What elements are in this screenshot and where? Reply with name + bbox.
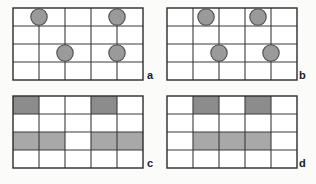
panel-b-circle-r3-c2 (211, 45, 227, 61)
panel-d-cell-r1-c4 (245, 96, 271, 114)
panel-a-circle-r1-c4 (109, 9, 125, 25)
panel-b-circle-r1-c2 (198, 9, 214, 25)
panel-c-cell-r3-c4 (91, 132, 117, 150)
panel-d (157, 86, 307, 178)
panel-d-grid (157, 86, 307, 178)
panel-d-label: d (299, 158, 306, 169)
panel-c-grid (3, 86, 153, 178)
panel-c-cell-r1-c1 (13, 96, 39, 114)
panel-b-circle-r1-c4 (250, 9, 266, 25)
panel-a-grid (3, 0, 153, 90)
panel-d-cell-r3-c3 (219, 132, 245, 150)
panel-c-cell-r3-c2 (39, 132, 65, 150)
panel-a-circle-r3-c2 (57, 45, 73, 61)
panel-d-cell-r3-c4 (245, 132, 271, 150)
panel-b-grid (157, 0, 307, 90)
panel-b-circle-r3-c4 (263, 45, 279, 61)
panel-a-circle-r3-c4 (109, 45, 125, 61)
panel-c-cell-r1-c4 (91, 96, 117, 114)
panel-b (157, 0, 307, 90)
panel-a (3, 0, 153, 90)
figure-four-panel-grids: abcd (0, 0, 316, 184)
panel-a-circle-r1-c1 (31, 9, 47, 25)
panel-c-cell-r3-c5 (117, 132, 143, 150)
panel-b-label: b (299, 70, 306, 81)
panel-d-cell-r1-c2 (193, 96, 219, 114)
panel-d-cell-r3-c2 (193, 132, 219, 150)
panel-c-cell-r3-c1 (13, 132, 39, 150)
panel-c (3, 86, 153, 178)
panel-c-label: c (147, 158, 153, 169)
panel-a-label: a (147, 70, 153, 81)
